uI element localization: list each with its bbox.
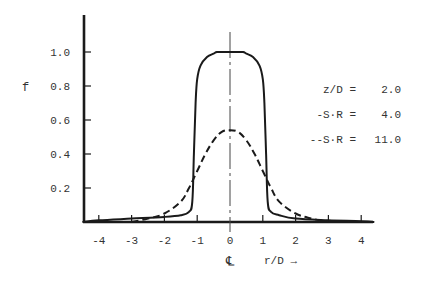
- annotation-label: -S·R =: [316, 109, 356, 121]
- x-tick-label: -1: [191, 235, 205, 247]
- x-axis-label: r/D →: [264, 255, 297, 267]
- x-tick-label: -4: [92, 235, 106, 247]
- x-tick-label: -2: [158, 235, 171, 247]
- x-tick-label: 0: [227, 235, 234, 247]
- x-tick-label: 4: [358, 235, 365, 247]
- legend: z/D =2.0-S·R =4.0--S·R =11.0: [310, 84, 401, 146]
- y-tick-label: 0.4: [50, 149, 70, 161]
- y-axis-label: f: [22, 81, 29, 95]
- y-tick-label: 1.0: [50, 47, 70, 59]
- annotation-label: z/D =: [323, 84, 356, 96]
- annotation-value: 11.0: [375, 134, 401, 146]
- annotation-value: 4.0: [381, 109, 401, 121]
- y-tick-label: 0.6: [50, 115, 70, 127]
- x-tick-label: 3: [325, 235, 332, 247]
- x-tick-label: 2: [292, 235, 299, 247]
- y-tick-label: 0.2: [50, 183, 70, 195]
- y-tick-label: 0.8: [50, 81, 70, 93]
- annotation-label: --S·R =: [310, 134, 356, 146]
- x-tick-label: -3: [125, 235, 138, 247]
- annotation-value: 2.0: [381, 84, 401, 96]
- chart: 0.20.40.60.81.0 -4-3-2-101234 f ℄ r/D → …: [0, 0, 421, 283]
- x-tick-label: 1: [259, 235, 266, 247]
- centerline-label: ℄: [225, 254, 235, 269]
